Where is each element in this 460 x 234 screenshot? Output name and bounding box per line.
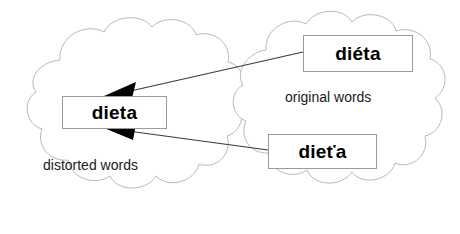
word-box-label: diéta [335,43,380,65]
word-box-dietza-original: dieťa [268,134,377,169]
word-box-dieta-original: diéta [303,35,413,72]
diagram-canvas: dieta diéta dieťa distorted words origin… [0,0,460,234]
word-box-dieta-distorted: dieta [62,96,167,129]
word-box-label: dieta [92,102,137,124]
cloud-label-original-words: original words [285,89,371,105]
word-box-label: dieťa [298,141,346,163]
cloud-label-distorted-words: distorted words [43,157,138,173]
